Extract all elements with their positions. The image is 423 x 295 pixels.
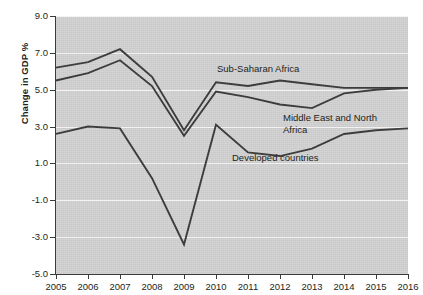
x-tick-mark [248, 274, 249, 279]
y-tick-label: 9.0 [8, 10, 48, 21]
y-tick-mark [50, 53, 55, 54]
y-tick-label: -5.0 [8, 268, 48, 279]
x-tick-mark [56, 274, 57, 279]
y-tick-mark [50, 127, 55, 128]
y-tick-label: 5.0 [8, 84, 48, 95]
plot-area: Sub-Saharan AfricaMiddle East and NorthA… [56, 16, 408, 274]
x-tick-mark [408, 274, 409, 279]
x-tick-mark [280, 274, 281, 279]
x-tick-mark [344, 274, 345, 279]
y-tick-mark [50, 200, 55, 201]
x-tick-mark [152, 274, 153, 279]
y-tick-label: 1.0 [8, 157, 48, 168]
annotation-label: Africa [283, 124, 307, 136]
y-tick-mark [50, 16, 55, 17]
x-tick-mark [184, 274, 185, 279]
series-lines [56, 16, 408, 274]
y-tick-label: 3.0 [8, 121, 48, 132]
x-axis-line [55, 274, 408, 275]
x-tick-mark [88, 274, 89, 279]
y-tick-label: 7.0 [8, 47, 48, 58]
x-tick-label: 2016 [388, 281, 423, 292]
x-tick-mark [312, 274, 313, 279]
annotation-label: Middle East and North [283, 112, 377, 124]
y-tick-label: -1.0 [8, 194, 48, 205]
y-tick-mark [50, 90, 55, 91]
x-tick-mark [120, 274, 121, 279]
y-axis-line [55, 16, 56, 275]
annotation-label: Sub-Saharan Africa [217, 63, 299, 75]
y-tick-label: -3.0 [8, 231, 48, 242]
y-tick-mark [50, 237, 55, 238]
y-tick-mark [50, 274, 55, 275]
series-line-developed-countries [56, 125, 408, 245]
x-tick-mark [376, 274, 377, 279]
y-tick-mark [50, 163, 55, 164]
annotation-label: Developed countries [232, 152, 319, 164]
x-tick-mark [216, 274, 217, 279]
